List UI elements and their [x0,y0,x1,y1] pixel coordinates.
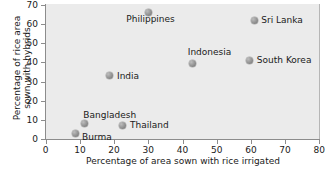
data-point-label: Bangladesh [83,110,136,120]
data-point[interactable] [189,60,196,67]
data-point[interactable] [72,130,79,137]
y-tick-mark [41,24,45,25]
data-point-label: Philippines [126,14,175,24]
x-tick-mark [251,140,252,144]
data-point-label: India [117,71,139,81]
data-point-label: Burma [82,132,112,142]
y-axis-line [45,4,46,140]
x-tick-mark [80,140,81,144]
x-tick-mark [285,140,286,144]
x-tick-label: 20 [108,145,119,155]
x-tick-mark [183,140,184,144]
x-tick-label: 30 [143,145,154,155]
y-axis-title-line1: Percentage of rice area [12,0,22,143]
y-tick-mark [41,43,45,44]
x-tick-mark [46,140,47,144]
y-tick-mark [41,5,45,6]
x-tick-label: 40 [177,145,188,155]
y-tick-mark [41,139,45,140]
y-tick-mark [41,82,45,83]
data-point-label: South Korea [257,55,312,65]
x-tick-label: 0 [43,145,49,155]
x-tick-label: 10 [74,145,85,155]
y-tick-label: 0 [32,134,38,144]
data-point-label: Thailand [130,120,169,130]
x-tick-label: 80 [314,145,325,155]
x-tick-mark [217,140,218,144]
x-tick-label: 60 [245,145,256,155]
y-axis-title: Percentage of rice area sown with hybrid… [12,0,32,143]
x-tick-label: 70 [279,145,290,155]
x-axis-title: Percentage of area sown with rice irriga… [46,156,320,166]
scatter-chart: 01020304050607080 010203040506070 BurmaB… [0,0,330,176]
y-tick-mark [41,62,45,63]
x-tick-mark [148,140,149,144]
x-tick-label: 50 [211,145,222,155]
x-tick-mark [114,140,115,144]
y-tick-mark [41,101,45,102]
x-tick-mark [319,140,320,144]
data-point[interactable] [251,17,258,24]
y-axis-title-line2: sown with hybrids [22,0,32,143]
data-point-label: Sri Lanka [261,15,303,25]
y-tick-mark [41,120,45,121]
data-point-label: Indonesia [188,47,232,57]
